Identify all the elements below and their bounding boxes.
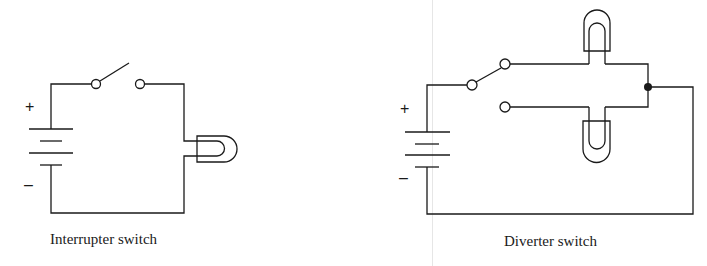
plus-sign: +	[25, 98, 34, 115]
minus-sign: –	[24, 176, 33, 193]
interrupter-caption: Interrupter switch	[50, 231, 157, 248]
minus-sign: –	[399, 169, 408, 186]
diverter-circuit	[405, 10, 693, 214]
diverter-caption: Diverter switch	[504, 233, 597, 250]
junction-dot-icon	[644, 83, 652, 91]
battery-icon	[29, 129, 73, 165]
circuit-diagrams: + – + –	[0, 0, 707, 266]
lower-lamp-icon	[583, 107, 610, 163]
lamp-icon	[197, 136, 237, 162]
interrupter-circuit	[29, 63, 237, 213]
wire	[144, 84, 197, 141]
wire	[427, 87, 693, 214]
battery-icon	[405, 132, 450, 167]
upper-lamp-icon	[584, 10, 610, 64]
wire	[51, 84, 92, 129]
wire	[51, 156, 197, 213]
wire	[427, 85, 467, 132]
two-way-switch-icon	[467, 59, 510, 112]
plus-sign: +	[400, 100, 409, 117]
wire	[605, 64, 648, 107]
open-switch-icon	[92, 63, 145, 89]
